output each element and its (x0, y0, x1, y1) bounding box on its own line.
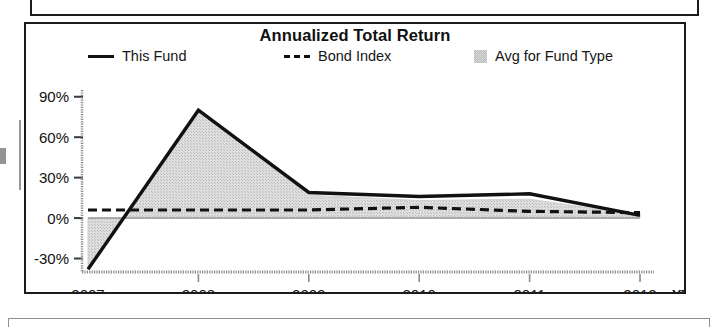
x-axis-ticks (198, 274, 640, 282)
plot-area: 90%60%30%0%-30% 200720082009201020112012… (26, 24, 684, 292)
y-tick-label: 0% (47, 210, 69, 227)
y-axis-tick-labels: 90%60%30%0%-30% (34, 88, 69, 267)
annualized-total-return-chart: Annualized Total Return This Fund Bond I… (24, 22, 686, 294)
y-tick-label: 30% (39, 169, 69, 186)
y-tick-label: 60% (39, 129, 69, 146)
x-tick-label: 2010 (403, 286, 436, 292)
x-tick-label: 2012 (623, 286, 656, 292)
adjacent-panel-above (30, 0, 699, 16)
adjacent-panel-below (8, 318, 710, 327)
page-edge-rule (19, 120, 21, 190)
x-tick-label: 2011 (513, 286, 545, 292)
x-tick-label: 2009 (292, 286, 325, 292)
y-tick-label: 90% (39, 88, 69, 105)
x-tick-label: 2008 (182, 286, 215, 292)
plot-svg: 90%60%30%0%-30% 200720082009201020112012… (26, 24, 684, 292)
avg-for-fund-type-area (88, 110, 640, 269)
y-tick-label: -30% (34, 250, 69, 267)
screenshot-page: Annualized Total Return This Fund Bond I… (0, 0, 710, 327)
x-axis-ytd-label: YTD (672, 287, 684, 292)
x-tick-label: 2007 (71, 286, 104, 292)
x-axis-tick-labels: 200720082009201020112012YTD (71, 286, 684, 292)
page-edge-artifact (0, 148, 6, 164)
